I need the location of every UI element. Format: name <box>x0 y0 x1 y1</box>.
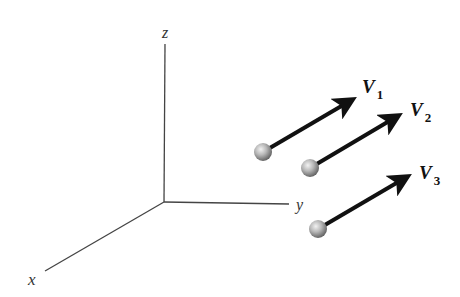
arrow-v1 <box>263 101 350 152</box>
vector-label-v1: V1 <box>362 76 383 102</box>
vector-subscript-v2: 2 <box>425 110 432 125</box>
vector-v3: V3 <box>309 162 441 238</box>
arrow-v3 <box>318 178 405 229</box>
vector-name-v1: V <box>362 76 376 97</box>
vector-diagram: z y x V1 V2 V3 <box>0 0 460 297</box>
vector-name-v2: V <box>410 99 424 120</box>
z-axis-label: z <box>161 24 169 41</box>
x-axis <box>45 202 164 271</box>
y-axis-label: y <box>294 196 304 214</box>
y-axis <box>164 202 289 204</box>
vector-v1: V1 <box>254 76 383 161</box>
vector-subscript-v1: 1 <box>377 87 384 102</box>
sphere-v3 <box>309 220 327 238</box>
sphere-v2 <box>301 159 319 177</box>
vector-label-v2: V2 <box>410 99 431 125</box>
sphere-v1 <box>254 143 272 161</box>
vector-label-v3: V3 <box>419 162 441 188</box>
vector-v2: V2 <box>301 99 431 177</box>
vector-name-v3: V <box>419 162 433 183</box>
x-axis-label: x <box>27 270 36 289</box>
z-axis <box>164 44 165 202</box>
vector-subscript-v3: 3 <box>434 173 441 188</box>
arrow-v2 <box>310 117 396 168</box>
